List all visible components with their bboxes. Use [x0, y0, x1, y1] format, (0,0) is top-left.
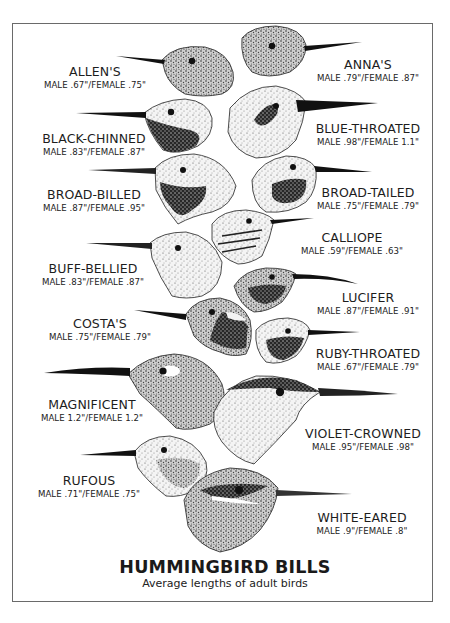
species-name: ANNA'S [306, 57, 430, 72]
species-name: WHITE-EARED [300, 510, 424, 525]
species-measurement: MALE .67"/FEMALE .79" [306, 361, 430, 373]
species-measurement: MALE .71"/FEMALE .75" [28, 488, 150, 500]
species-label-ruby-throated: RUBY-THROATED MALE .67"/FEMALE .79" [306, 346, 430, 373]
species-measurement: MALE 1.2"/FEMALE 1.2" [30, 412, 154, 424]
species-label-broad-tailed: BROAD-TAILED MALE .75"/FEMALE .79" [306, 185, 430, 212]
figure-subtitle: Average lengths of adult birds [0, 577, 450, 590]
species-measurement: MALE .95"/FEMALE .98" [298, 441, 428, 453]
species-measurement: MALE .67"/FEMALE .75" [36, 79, 154, 91]
species-name: BROAD-TAILED [306, 185, 430, 200]
species-name: ALLEN'S [36, 64, 154, 79]
species-label-lucifer: LUCIFER MALE .87"/FEMALE .91" [306, 290, 430, 317]
species-label-blue-throated: BLUE-THROATED MALE .98"/FEMALE 1.1" [306, 121, 430, 148]
species-measurement: MALE .98"/FEMALE 1.1" [306, 136, 430, 148]
species-label-white-eared: WHITE-EARED MALE .9"/FEMALE .8" [300, 510, 424, 537]
species-label-magnificent: MAGNIFICENT MALE 1.2"/FEMALE 1.2" [30, 397, 154, 424]
species-label-costas: COSTA'S MALE .75"/FEMALE .79" [40, 316, 160, 343]
species-label-rufous: RUFOUS MALE .71"/FEMALE .75" [28, 473, 150, 500]
species-measurement: MALE .87"/FEMALE .91" [306, 305, 430, 317]
species-name: BLACK-CHINNED [34, 131, 154, 146]
species-measurement: MALE .87"/FEMALE .95" [34, 202, 154, 214]
species-label-annas: ANNA'S MALE .79"/FEMALE .87" [306, 57, 430, 84]
species-name: BUFF-BELLIED [32, 261, 154, 276]
species-measurement: MALE .59"/FEMALE .63" [290, 245, 414, 257]
species-label-violet-crowned: VIOLET-CROWNED MALE .95"/FEMALE .98" [298, 426, 428, 453]
species-measurement: MALE .75"/FEMALE .79" [40, 331, 160, 343]
species-name: CALLIOPE [290, 230, 414, 245]
species-name: LUCIFER [306, 290, 430, 305]
species-label-broad-billed: BROAD-BILLED MALE .87"/FEMALE .95" [34, 187, 154, 214]
species-name: RUBY-THROATED [306, 346, 430, 361]
figure-caption: HUMMINGBIRD BILLS Average lengths of adu… [0, 557, 450, 590]
species-measurement: MALE .9"/FEMALE .8" [300, 525, 424, 537]
species-label-calliope: CALLIOPE MALE .59"/FEMALE .63" [290, 230, 414, 257]
species-measurement: MALE .79"/FEMALE .87" [306, 72, 430, 84]
species-measurement: MALE .75"/FEMALE .79" [306, 200, 430, 212]
species-label-allens: ALLEN'S MALE .67"/FEMALE .75" [36, 64, 154, 91]
species-name: BROAD-BILLED [34, 187, 154, 202]
species-name: MAGNIFICENT [30, 397, 154, 412]
species-name: BLUE-THROATED [306, 121, 430, 136]
species-label-buff-bellied: BUFF-BELLIED MALE .83"/FEMALE .87" [32, 261, 154, 288]
species-label-black-chinned: BLACK-CHINNED MALE .83"/FEMALE .87" [34, 131, 154, 158]
species-name: COSTA'S [40, 316, 160, 331]
species-measurement: MALE .83"/FEMALE .87" [32, 276, 154, 288]
species-measurement: MALE .83"/FEMALE .87" [34, 146, 154, 158]
species-name: VIOLET-CROWNED [298, 426, 428, 441]
species-name: RUFOUS [28, 473, 150, 488]
figure-title: HUMMINGBIRD BILLS [0, 557, 450, 577]
